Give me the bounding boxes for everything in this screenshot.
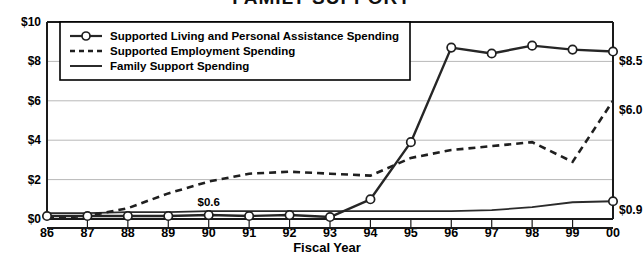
legend: Supported Living and Personal Assistance…: [60, 22, 410, 80]
y-axis-tick-label: $8: [28, 54, 42, 68]
legend-label-supported-living: Supported Living and Personal Assistance…: [110, 30, 399, 42]
data-point-marker: [366, 195, 374, 203]
data-point-marker: [568, 45, 576, 53]
end-value-label: $8.5: [619, 54, 643, 68]
series-family-support-end-marker: [609, 197, 617, 205]
end-value-labels: $8.5$6.0$0.9: [619, 54, 643, 218]
chart-plot-area: $0$2$4$6$8$10 86878889909192939495969798…: [0, 0, 643, 260]
data-point-marker: [245, 212, 253, 220]
data-point-marker: [164, 212, 172, 220]
data-point-marker: [43, 212, 51, 220]
data-point-marker: [528, 41, 536, 49]
data-point-marker: [124, 212, 132, 220]
data-point-marker: [285, 211, 293, 219]
data-point-marker: [407, 138, 415, 146]
data-point-marker: [205, 211, 213, 219]
y-axis-tick-label: $0: [28, 212, 42, 226]
data-point-marker: [609, 197, 617, 205]
data-point-marker: [83, 212, 91, 220]
y-axis-tick-labels: $0$2$4$6$8$10: [21, 15, 41, 226]
y-axis-tick-label: $2: [28, 173, 42, 187]
y-axis-tick-label: $4: [28, 133, 42, 147]
y-axis-tick-label: $6: [28, 94, 42, 108]
end-value-label: $6.0: [619, 103, 643, 117]
data-point-marker: [609, 47, 617, 55]
data-point-marker: [488, 49, 496, 57]
data-point-marker: [326, 213, 334, 221]
y-axis-tick-label: $10: [21, 15, 41, 29]
data-point-marker: [447, 43, 455, 51]
end-value-label: $0.9: [619, 203, 643, 217]
chart-container: FAMILY SUPPORT $0$2$4$6$8$10 86878889909…: [0, 0, 643, 260]
series-supported-employment: [47, 101, 613, 218]
legend-marker-circle-icon: [82, 32, 90, 40]
legend-item-supported-living[interactable]: Supported Living and Personal Assistance…: [70, 30, 399, 42]
legend-label-family-support: Family Support Spending: [110, 60, 249, 72]
x-axis-title: Fiscal Year: [293, 240, 361, 255]
legend-label-supported-employment: Supported Employment Spending: [110, 45, 295, 57]
point-label-0-6: $0.6: [198, 196, 220, 208]
